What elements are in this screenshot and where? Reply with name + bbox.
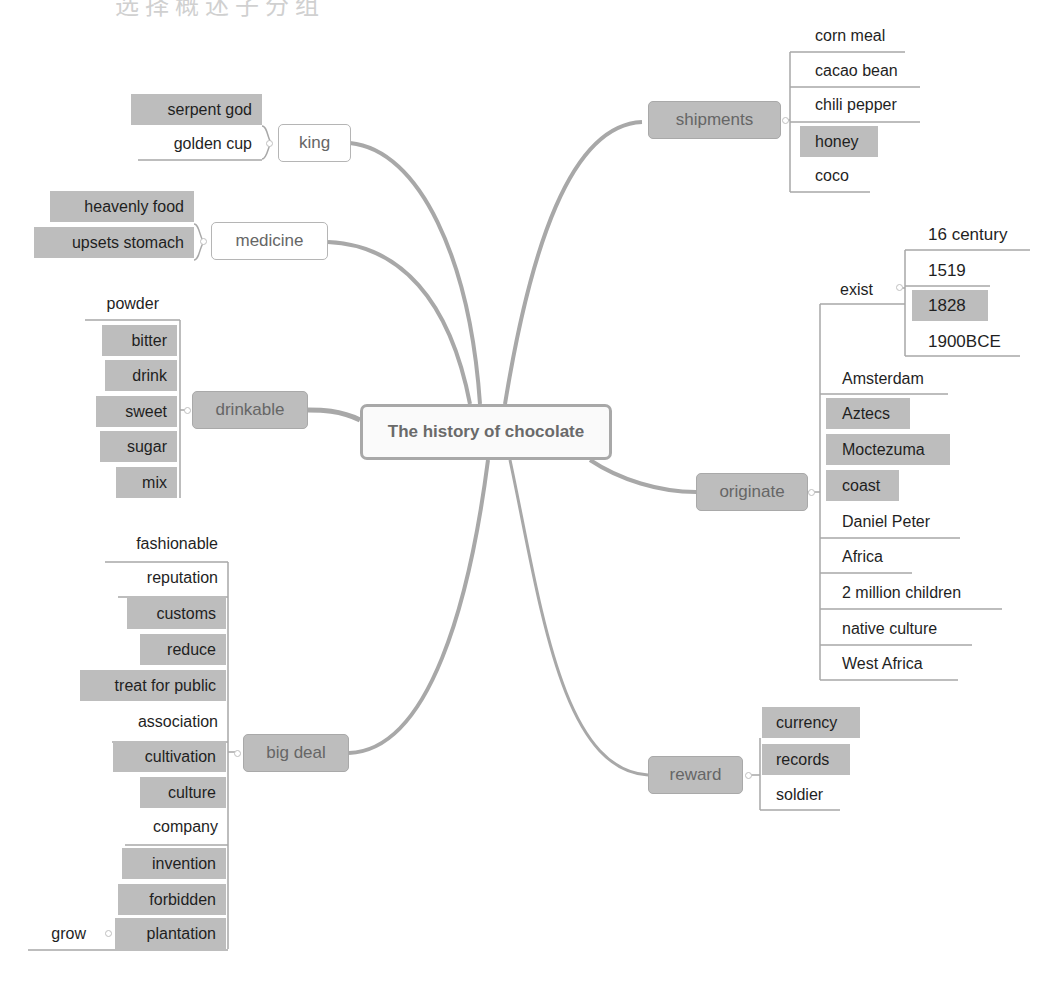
leaf-plantation[interactable]: plantation (115, 918, 226, 949)
leaf-daniel-peter[interactable]: Daniel Peter (832, 506, 957, 537)
leaf-exist[interactable]: exist (830, 274, 900, 305)
leaf-culture[interactable]: culture (140, 777, 226, 808)
leaf-mix[interactable]: mix (116, 467, 177, 498)
topic-drinkable[interactable]: drinkable (192, 391, 308, 429)
leaf-amsterdam[interactable]: Amsterdam (832, 363, 947, 394)
leaf-invention[interactable]: invention (122, 848, 226, 879)
leaf-soldier[interactable]: soldier (766, 779, 840, 810)
leaf-association[interactable]: association (112, 706, 228, 737)
leaf-grow[interactable]: grow (28, 918, 98, 949)
leaf-1519[interactable]: 1519 (918, 255, 993, 286)
topic-originate[interactable]: originate (696, 473, 808, 511)
topic-medicine[interactable]: medicine (211, 222, 328, 260)
leaf-company[interactable]: company (125, 811, 228, 842)
leaf-customs[interactable]: customs (127, 598, 226, 629)
leaf-bitter[interactable]: bitter (102, 325, 177, 356)
leaf-serpent-god[interactable]: serpent god (131, 94, 262, 125)
collapse-toggle-icon[interactable] (808, 489, 815, 496)
leaf-treat-for-public[interactable]: treat for public (80, 670, 226, 701)
collapse-toggle-icon[interactable] (234, 750, 241, 757)
leaf-chili-pepper[interactable]: chili pepper (805, 89, 920, 120)
leaf-2-million-children[interactable]: 2 million children (832, 577, 1002, 608)
root-topic[interactable]: The history of chocolate (360, 404, 612, 460)
leaf-honey[interactable]: honey (800, 126, 878, 157)
leaf-west-africa[interactable]: West Africa (832, 648, 958, 679)
topic-king[interactable]: king (278, 124, 351, 162)
collapse-toggle-icon[interactable] (896, 284, 903, 291)
topic-shipments[interactable]: shipments (648, 101, 781, 139)
leaf-moctezuma[interactable]: Moctezuma (826, 434, 950, 465)
leaf-reputation[interactable]: reputation (118, 562, 228, 593)
leaf-africa[interactable]: Africa (832, 541, 912, 572)
leaf-native-culture[interactable]: native culture (832, 613, 972, 644)
leaf-cultivation[interactable]: cultivation (113, 741, 226, 772)
leaf-corn-meal[interactable]: corn meal (805, 20, 915, 51)
leaf-1900bce[interactable]: 1900BCE (918, 326, 1018, 357)
collapse-toggle-icon[interactable] (266, 140, 273, 147)
collapse-toggle-icon[interactable] (200, 238, 207, 245)
leaf-powder[interactable]: powder (85, 288, 169, 319)
leaf-forbidden[interactable]: forbidden (118, 884, 226, 915)
leaf-upsets-stomach[interactable]: upsets stomach (34, 227, 194, 258)
leaf-cacao-bean[interactable]: cacao bean (805, 55, 920, 86)
leaf-currency[interactable]: currency (762, 707, 860, 738)
leaf-16-century[interactable]: 16 century (918, 219, 1033, 250)
collapse-toggle-icon[interactable] (184, 407, 191, 414)
leaf-reduce[interactable]: reduce (140, 634, 226, 665)
leaf-heavenly-food[interactable]: heavenly food (50, 191, 194, 222)
topic-big-deal[interactable]: big deal (243, 734, 349, 772)
collapse-toggle-icon[interactable] (745, 772, 752, 779)
collapse-toggle-icon[interactable] (105, 930, 112, 937)
topic-reward[interactable]: reward (648, 756, 743, 794)
leaf-records[interactable]: records (762, 744, 850, 775)
leaf-sweet[interactable]: sweet (96, 396, 177, 427)
leaf-aztecs[interactable]: Aztecs (826, 398, 910, 429)
leaf-sugar[interactable]: sugar (100, 431, 177, 462)
leaf-coco[interactable]: coco (805, 160, 880, 191)
leaf-golden-cup[interactable]: golden cup (138, 128, 262, 159)
leaf-drink[interactable]: drink (105, 360, 177, 391)
collapse-toggle-icon[interactable] (782, 117, 789, 124)
leaf-coast[interactable]: coast (826, 470, 899, 501)
leaf-1828[interactable]: 1828 (912, 290, 988, 321)
leaf-fashionable[interactable]: fashionable (105, 528, 228, 559)
